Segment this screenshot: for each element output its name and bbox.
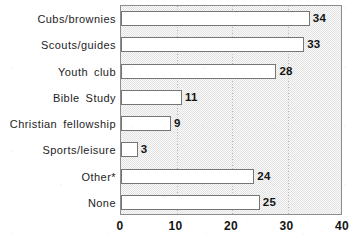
bar bbox=[121, 195, 260, 210]
bar bbox=[121, 169, 254, 184]
bar-row bbox=[121, 85, 341, 111]
category-label: Cubs/brownies bbox=[0, 13, 116, 25]
value-label: 11 bbox=[185, 91, 198, 103]
bar-row bbox=[121, 111, 341, 137]
bar bbox=[121, 11, 310, 26]
x-tick-label: 30 bbox=[280, 219, 294, 233]
bar-row bbox=[121, 137, 341, 163]
x-tick-label: 10 bbox=[169, 219, 183, 233]
x-tick-label: 40 bbox=[335, 219, 349, 233]
value-label: 9 bbox=[174, 117, 181, 129]
bar-row bbox=[121, 6, 341, 32]
bar-row bbox=[121, 190, 341, 215]
value-label: 33 bbox=[307, 38, 320, 50]
bar bbox=[121, 37, 304, 52]
category-label: Scouts/guides bbox=[0, 39, 116, 51]
bar bbox=[121, 90, 182, 105]
bar bbox=[121, 116, 171, 131]
plot-area bbox=[120, 5, 342, 215]
category-label: Other* bbox=[0, 171, 116, 183]
x-tick-label: 20 bbox=[224, 219, 238, 233]
category-label: Christian fellowship bbox=[0, 118, 116, 130]
bar-row bbox=[121, 59, 341, 85]
x-axis-tick-labels: 010203040 bbox=[0, 219, 356, 237]
value-label: 28 bbox=[279, 65, 292, 77]
bar bbox=[121, 64, 276, 79]
value-label: 25 bbox=[263, 196, 276, 208]
x-tick-label: 0 bbox=[117, 219, 124, 233]
category-label: Sports/leisure bbox=[0, 144, 116, 156]
value-label: 34 bbox=[313, 12, 326, 24]
bar bbox=[121, 142, 138, 157]
category-label: Youth club bbox=[0, 66, 116, 78]
bar-chart: Cubs/browniesScouts/guidesYouth clubBibl… bbox=[0, 0, 356, 241]
category-label: Bible Study bbox=[0, 92, 116, 104]
value-label: 3 bbox=[141, 143, 148, 155]
value-label: 24 bbox=[257, 170, 270, 182]
bar-row bbox=[121, 164, 341, 190]
category-label: None bbox=[0, 197, 116, 209]
